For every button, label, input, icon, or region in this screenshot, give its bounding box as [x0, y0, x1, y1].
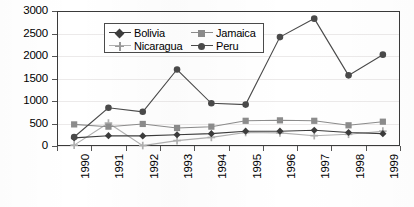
legend-label-jamaica: Jamaica [216, 27, 256, 39]
data-point [242, 101, 249, 108]
data-point [380, 119, 386, 125]
series-line [74, 123, 383, 146]
data-point [139, 132, 146, 139]
data-point [139, 109, 146, 116]
data-point [380, 51, 387, 58]
data-point [105, 124, 111, 130]
data-point [174, 66, 181, 73]
legend-item-bolivia[interactable]: Bolivia [109, 27, 191, 39]
legend-label-nicaragua: Nicaragua [134, 40, 182, 52]
square-marker-icon [191, 27, 213, 38]
data-point [70, 141, 78, 149]
data-point [173, 131, 180, 138]
data-point [71, 121, 77, 127]
data-point [311, 15, 318, 22]
legend-label-bolivia: Bolivia [134, 27, 165, 39]
legend: Bolivia Jamaica Nicaragua [104, 23, 264, 53]
data-point [105, 104, 112, 111]
legend-row-2: Nicaragua Peru [109, 39, 259, 52]
data-point [174, 125, 180, 131]
data-point [311, 127, 318, 134]
series-line [74, 120, 383, 128]
data-point [345, 122, 351, 128]
legend-label-peru: Peru [216, 40, 238, 52]
diamond-marker-icon [109, 27, 131, 38]
data-point [140, 121, 146, 127]
legend-item-nicaragua[interactable]: Nicaragua [109, 40, 191, 52]
data-point [277, 34, 284, 41]
data-point [208, 100, 215, 107]
data-point [277, 117, 283, 123]
data-point [311, 118, 317, 124]
plus-marker-icon [109, 40, 131, 51]
data-point [208, 130, 215, 137]
data-point [105, 132, 112, 139]
data-point [71, 134, 78, 141]
data-point [208, 124, 214, 130]
line-chart: 050010001500200025003000 199019911992199… [0, 0, 414, 207]
circle-marker-icon [191, 40, 213, 51]
data-point [242, 128, 249, 135]
data-point [139, 142, 147, 150]
legend-item-peru[interactable]: Peru [191, 40, 238, 52]
data-point [243, 118, 249, 124]
data-point [345, 72, 352, 79]
legend-item-jamaica[interactable]: Jamaica [191, 27, 256, 39]
legend-row-1: Bolivia Jamaica [109, 26, 259, 39]
